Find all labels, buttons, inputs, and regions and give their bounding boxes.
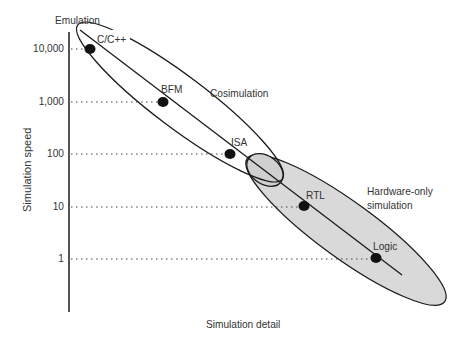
x-axis-label: Simulation detail — [206, 318, 280, 330]
point-logic — [371, 253, 382, 263]
y-tick-10: 10 — [9, 200, 64, 212]
trend-line — [80, 30, 402, 275]
point-label-isa: ISA — [231, 136, 247, 148]
emulation-label: Emulation — [55, 14, 100, 26]
y-tick-100: 100 — [9, 147, 64, 159]
point-isa — [225, 149, 236, 159]
point-bfm — [158, 97, 169, 107]
y-tick-1000: 1,000 — [9, 95, 64, 107]
y-tick-1: 1 — [9, 252, 64, 264]
y-axis-label: Simulation speed — [21, 128, 33, 212]
point-cpp — [85, 44, 96, 54]
hardware-label-line1: Hardware-only — [367, 185, 433, 197]
point-label-bfm: BFM — [161, 83, 182, 95]
point-label-cpp: C/C++ — [97, 33, 126, 45]
diagram-canvas — [0, 0, 464, 342]
cosimulation-label: Cosimulation — [210, 87, 269, 99]
hardware-label-line2: simulation — [367, 199, 413, 211]
point-label-rtl: RTL — [306, 189, 325, 201]
y-tick-10000: 10,000 — [9, 42, 64, 54]
point-rtl — [299, 201, 310, 211]
point-label-logic: Logic — [373, 240, 397, 252]
